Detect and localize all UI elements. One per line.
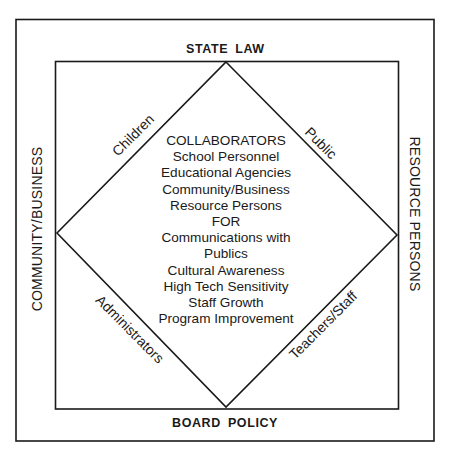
top-label-state-law: STATE LAW — [186, 43, 265, 56]
center-line: Staff Growth — [126, 295, 326, 311]
center-text-block: COLLABORATORS School Personnel Education… — [126, 133, 326, 327]
center-line: Community/Business — [126, 182, 326, 198]
bottom-label-board-policy: BOARD POLICY — [172, 417, 278, 430]
center-line: Resource Persons — [126, 198, 326, 214]
center-heading-for: FOR — [126, 214, 326, 230]
center-line: High Tech Sensitivity — [126, 279, 326, 295]
center-line: School Personnel — [126, 149, 326, 165]
center-line: Educational Agencies — [126, 165, 326, 181]
center-line: Publics — [126, 246, 326, 262]
center-line: Program Improvement — [126, 311, 326, 327]
left-label-community-business: COMMUNITY/BUSINESS — [30, 147, 44, 312]
center-heading-collaborators: COLLABORATORS — [126, 133, 326, 149]
center-line: Cultural Awareness — [126, 263, 326, 279]
center-line: Communications with — [126, 230, 326, 246]
right-label-resource-persons: RESOURCE PERSONS — [408, 137, 422, 292]
